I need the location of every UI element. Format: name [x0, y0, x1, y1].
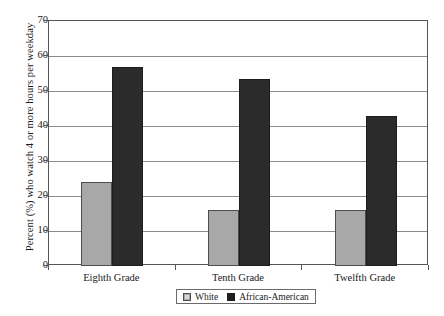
x-tick-label: Twelfth Grade — [301, 271, 428, 285]
bar-twelfth-grade-white — [335, 210, 366, 266]
y-tick-label: 50 — [14, 85, 48, 95]
x-tick-mark — [48, 265, 49, 270]
x-tick-label: Eighth Grade — [48, 271, 175, 285]
y-tick-label: 30 — [14, 155, 48, 165]
chart-legend: WhiteAfrican-American — [176, 289, 316, 304]
y-tick-label: 40 — [14, 120, 48, 130]
legend-swatch-icon — [183, 293, 191, 301]
gridline — [49, 91, 427, 92]
legend-item-african-american: African-American — [227, 292, 309, 302]
y-tick-label: 0 — [14, 260, 48, 270]
y-tick-label: 60 — [14, 50, 48, 60]
y-tick-label: 10 — [14, 225, 48, 235]
x-tick-mark — [428, 265, 429, 270]
bar-twelfth-grade-african-american — [366, 116, 397, 267]
y-tick-label: 70 — [14, 15, 48, 25]
y-axis: 010203040506070 — [6, 20, 48, 265]
x-tick-mark — [175, 265, 176, 270]
gridline — [49, 56, 427, 57]
bar-tenth-grade-white — [208, 210, 239, 266]
bar-chart-figure: Percent (%) who watch 4 or more hours pe… — [0, 0, 444, 316]
bar-eighth-grade-african-american — [112, 67, 143, 267]
legend-label: African-American — [239, 292, 309, 302]
legend-item-white: White — [183, 292, 218, 302]
y-tick-label: 20 — [14, 190, 48, 200]
plot-area — [48, 20, 428, 265]
x-tick-mark — [301, 265, 302, 270]
bar-eighth-grade-white — [81, 182, 112, 266]
legend-swatch-icon — [227, 293, 235, 301]
x-tick-label: Tenth Grade — [175, 271, 302, 285]
legend-label: White — [195, 292, 218, 302]
bar-tenth-grade-african-american — [239, 79, 270, 266]
